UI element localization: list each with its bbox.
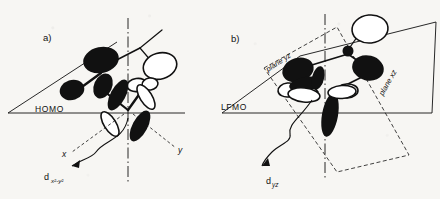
x-axis-label-a: x (61, 149, 67, 159)
d-orbital-label-b-sub: yz (271, 181, 279, 189)
d-orbital-label-a-sub: x²-y² (50, 177, 64, 184)
bond-a-3 (140, 30, 162, 48)
lobe-a-open-1 (140, 49, 180, 83)
homo-label: HOMO (35, 104, 64, 114)
lobe-b-filled-node (343, 46, 354, 57)
lobe-b-open-top (351, 13, 390, 45)
d-orbital-label-a: d x²-y² (44, 172, 64, 184)
panel-a-open-lobes (126, 49, 180, 93)
panel-b: b) LFMO plane yz plane xz d yz (221, 13, 436, 189)
callout-a-arrowhead (72, 160, 80, 168)
lobe-b-filled-2 (349, 52, 386, 84)
panel-b-label: b) (231, 33, 239, 44)
lobe-a-filled-1 (81, 44, 122, 77)
panel-a: a) HOMO x y d x²-y² (8, 18, 196, 184)
panel-a-inplane-axes (72, 114, 176, 152)
d-orbital-label-b: d yz (266, 176, 279, 189)
figure-canvas: a) HOMO x y d x²-y² (0, 0, 440, 199)
d-orbital-label-b-base: d (266, 176, 271, 186)
callout-a-path (72, 118, 128, 166)
lobe-a-filled-2 (57, 77, 87, 104)
callout-b-path (262, 100, 312, 166)
molecular-orbital-diagram: a) HOMO x y d x²-y² (0, 0, 440, 199)
d-orbital-label-a-base: d (44, 172, 49, 182)
panel-a-callout-arrow (72, 118, 128, 168)
plane-b-right-edge (432, 22, 436, 113)
panel-b-callout-arrow (262, 100, 312, 166)
lfmo-label: LFMO (221, 102, 247, 112)
y-axis-label-a: y (177, 145, 183, 155)
panel-a-label: a) (43, 32, 51, 43)
